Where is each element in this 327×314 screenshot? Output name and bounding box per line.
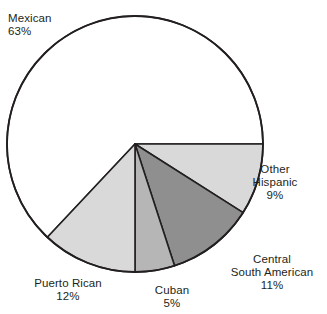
pie-label-cuban-name: Cuban bbox=[155, 284, 189, 297]
pie-label-mexican-value: 63% bbox=[8, 25, 52, 38]
pie-label-cuban: Cuban 5% bbox=[155, 284, 189, 310]
pie-label-cuban-value: 5% bbox=[155, 297, 189, 310]
pie-label-central-south-american-name-line2: South American bbox=[231, 266, 314, 279]
pie-label-puerto-rican: Puerto Rican 12% bbox=[34, 277, 102, 303]
pie-label-other-hispanic: Other Hispanic 9% bbox=[253, 163, 298, 202]
pie-chart-figure: Mexican 63% Other Hispanic 9% Central So… bbox=[0, 0, 327, 314]
pie-label-central-south-american-name-line1: Central bbox=[231, 253, 314, 266]
pie-label-other-hispanic-name-line2: Hispanic bbox=[253, 176, 298, 189]
pie-label-other-hispanic-name-line1: Other bbox=[253, 163, 298, 176]
pie-label-other-hispanic-value: 9% bbox=[253, 189, 298, 202]
pie-label-mexican: Mexican 63% bbox=[8, 12, 52, 38]
pie-label-central-south-american: Central South American 11% bbox=[231, 253, 314, 292]
pie-label-puerto-rican-value: 12% bbox=[34, 290, 102, 303]
pie-label-puerto-rican-name: Puerto Rican bbox=[34, 277, 102, 290]
pie-label-mexican-name: Mexican bbox=[8, 12, 52, 25]
pie-label-central-south-american-value: 11% bbox=[231, 279, 314, 292]
pie-slice-group bbox=[7, 16, 263, 272]
